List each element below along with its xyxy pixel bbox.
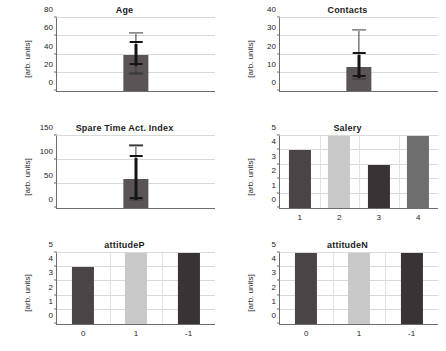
plot-area: 01234501-1 [279,253,438,325]
bar [295,253,317,324]
y-axis-tick-mark [54,280,57,281]
y-axis-tick-label: 0 [49,311,53,320]
grid-line-vertical [320,136,321,208]
grid-line [280,17,438,18]
bar [178,253,200,324]
panel-contacts: Contacts [arb. units] 010203040 [223,0,446,118]
grid-line [57,17,215,18]
y-axis-tick-label: 0 [272,195,276,204]
y-axis-tick-mark [277,53,280,54]
plot-area: 050100150 [56,136,215,209]
grid-line-vertical [359,136,360,208]
y-axis-tick-label: 3 [272,151,276,160]
grid-line-vertical [110,253,111,324]
x-axis-tick-label: 0 [304,329,308,338]
plot-area: 0123451234 [279,136,438,209]
bar [368,165,390,208]
y-axis-tick-label: 1 [272,180,276,189]
y-axis-tick-mark [54,53,57,54]
y-axis-tick-label: 5 [49,240,53,249]
error-bar-cap [129,73,143,74]
y-axis-tick-label: 2 [49,282,53,291]
y-axis-tick-mark [54,183,57,184]
y-axis-tick-label: 5 [272,240,276,249]
y-axis-tick-label: 10 [267,59,276,68]
y-axis-tick-mark [54,252,57,253]
x-axis-tick-label: 1 [298,213,302,222]
panel-title: Salery [223,123,446,133]
y-axis-tick-label: 4 [272,137,276,146]
figure-panel-grid: Age [arb. units] 020406080 Contacts [arb… [0,0,446,351]
error-bar-inner-cap [353,52,366,54]
error-bar-inner [135,158,138,201]
error-bar-inner-cap [130,41,143,43]
y-axis-tick-mark [54,294,57,295]
x-axis-tick-label: 1 [357,329,361,338]
y-axis-label: [arb. units] [23,158,32,195]
y-axis-tick-mark [54,159,57,160]
x-axis-tick-label: -1 [185,329,192,338]
y-axis-tick-mark [54,17,57,18]
y-axis-tick-label: 50 [44,171,53,180]
y-axis-tick-mark [277,17,280,18]
y-axis-tick-mark [54,207,57,208]
y-axis-tick-mark [277,323,280,324]
y-axis-tick-mark [277,294,280,295]
y-axis-tick-mark [54,308,57,309]
y-axis-label: [arb. units] [23,274,32,311]
panel-age: Age [arb. units] 020406080 [0,0,223,118]
y-axis-tick-mark [277,252,280,253]
y-axis-tick-label: 4 [49,254,53,263]
y-axis-tick-mark [277,90,280,91]
y-axis-tick-label: 40 [267,5,276,14]
y-axis-tick-mark [277,207,280,208]
y-axis-tick-label: 20 [267,41,276,50]
panel-title: attitudeN [223,240,446,250]
x-axis-tick-label: 4 [416,213,420,222]
y-axis-tick-label: 3 [49,268,53,277]
y-axis-tick-label: 30 [267,23,276,32]
y-axis-tick-label: 0 [49,78,53,87]
error-bar-inner-cap [130,197,143,199]
y-axis-tick-label: 0 [272,311,276,320]
error-bar-cap [129,145,143,146]
y-axis-tick-mark [277,35,280,36]
y-axis-tick-mark [277,71,280,72]
panel-title: attitudeP [0,240,223,250]
y-axis-tick-mark [277,266,280,267]
grid-line-vertical [385,253,386,324]
y-axis-tick-mark [54,71,57,72]
bar [407,136,429,208]
error-bar-inner-cap [353,75,366,77]
y-axis-tick-label: 150 [40,123,53,132]
y-axis-tick-label: 5 [272,123,276,132]
y-axis-tick-label: 0 [49,195,53,204]
error-bar-cap [352,78,366,79]
y-axis-label: [arb. units] [246,274,255,311]
y-axis-tick-label: 2 [272,282,276,291]
grid-line [57,135,215,136]
plot-area: 010203040 [279,18,438,92]
y-axis-tick-label: 4 [272,254,276,263]
x-axis-tick-label: 0 [81,329,85,338]
grid-line-vertical [162,253,163,324]
panel-title: Contacts [223,5,446,15]
error-bar-inner-cap [130,63,143,65]
panel-title: Spare Time Act. Index [0,123,223,133]
y-axis-tick-label: 1 [272,296,276,305]
y-axis-tick-label: 2 [272,166,276,175]
panel-attitudep: attitudeP [arb. units] 01234501-1 [0,235,223,351]
grid-line-vertical [333,253,334,324]
y-axis-tick-label: 100 [40,147,53,156]
x-axis-tick-label: 1 [134,329,138,338]
bar [125,253,147,324]
panel-title: Age [0,5,223,15]
y-axis-tick-mark [54,35,57,36]
bar [401,253,423,324]
y-axis-tick-mark [54,323,57,324]
error-bar-inner-cap [130,155,143,157]
y-axis-tick-mark [277,149,280,150]
bar [348,253,370,324]
y-axis-tick-label: 20 [44,59,53,68]
y-axis-label: [arb. units] [246,158,255,195]
